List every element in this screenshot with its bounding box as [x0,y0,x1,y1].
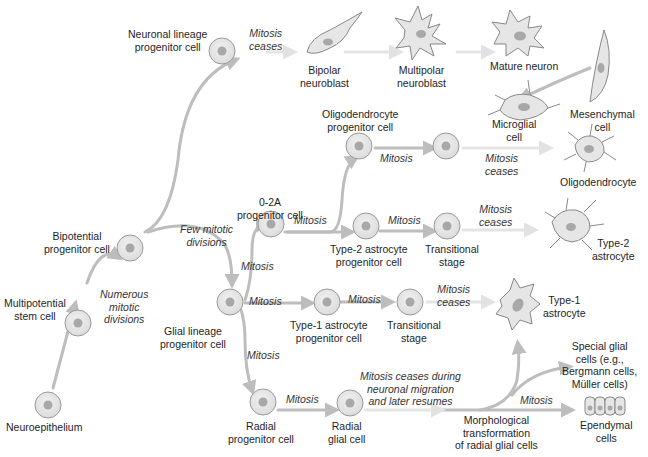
cell-bipotential [117,235,143,261]
edge-label-ependymal-mitosis: Mitosis [520,394,553,407]
label-oligodendrocyte: Oligodendrocyte [560,176,636,189]
cell-transitional-1 [434,213,460,239]
bipolar-neuroblast-icon [307,12,362,53]
cell-glial-progenitor [217,289,243,315]
cell-radial-progenitor [250,389,276,415]
edge-label-glial-to-o2a: Mitosis [241,260,274,273]
mesenchymal-cell-icon [590,30,609,102]
label-transitional-1: Transitional stage [425,243,479,268]
arrow-morph-to-type1 [480,345,519,410]
label-mesenchymal: Mesenchymal cell [570,108,635,133]
cell-oligo-stage2 [433,133,459,159]
cell-type1-progenitor [314,289,340,315]
edge-label-numerous: Numerous mitotic divisions [100,288,148,326]
edge-label-glial-to-type1: Mitosis [249,295,282,308]
label-type2-progenitor: Type-2 astrocyte progenitor cell [330,243,408,268]
type1-astrocyte-icon [496,278,540,330]
edge-label-few: Few mitotic divisions [180,223,233,248]
arrow-mesenchymal-to-microglial [522,68,590,98]
label-transitional-2: Transitional stage [387,319,441,344]
label-type1-progenitor: Type-1 astrocyte progenitor cell [290,319,368,344]
arrow-bipotential-to-neuronal [145,60,235,232]
cell-transitional-2 [397,289,423,315]
multipolar-neuroblast-icon [395,6,446,60]
label-mature-neuron: Mature neuron [490,60,558,73]
ependymal-cells-icon [585,397,625,415]
cell-neuroepithelium [35,392,61,418]
cell-neuronal-progenitor [209,38,235,64]
edge-label-o2a-to-oligo: Mitosis [380,152,413,165]
cell-oligo-progenitor [346,133,372,159]
label-neuronal-progenitor: Neuronal lineage progenitor cell [128,28,207,53]
edge-label-o2a-mitosis: Mitosis [294,214,327,227]
edge-label-type1-mitosis: Mitosis [348,293,381,306]
arrow-multipotential-to-bipotential [87,254,118,283]
cell-multipotential [65,310,91,336]
label-bipolar: Bipolar neuroblast [300,64,349,89]
edge-label-neuronal-ceases: Mitosis ceases [249,27,282,52]
edge-label-type1-ceases: Mitosis ceases [437,283,470,308]
edge-label-glial-to-radial: Mitosis [247,349,280,362]
edge-label-radial-ceases: Mitosis ceases during neuronal migration… [360,370,461,408]
label-neuroepithelium: Neuroepithelium [6,421,82,434]
edge-label-oligo-ceases: Mitosis ceases [485,152,518,177]
label-microglial: Microglial cell [492,118,536,143]
label-type2-astrocyte: Type-2 astrocyte [592,237,635,262]
label-radial-progenitor: Radial progenitor cell [228,420,294,445]
label-type1-astrocyte: Type-1 astrocyte [543,294,586,319]
cell-type2-progenitor [353,213,379,239]
label-oligo-progenitor: Oligodendrocyte progenitor cell [322,108,398,133]
label-multipolar: Multipolar neuroblast [397,64,446,89]
arrow-morph-to-special [512,367,568,395]
edge-label-type2-mitosis: Mitosis [388,214,421,227]
label-glial-progenitor: Glial lineage progenitor cell [160,325,226,350]
label-multipotential: Multipotential stem cell [4,297,66,322]
label-morphological: Morphological transformation of radial g… [455,414,538,452]
edge-label-radial-mitosis: Mitosis [286,393,319,406]
label-bipotential: Bipotential progenitor cell [44,230,110,255]
label-radial-glial: Radial glial cell [328,420,365,445]
label-special-glial: Special glial cells (e.g., Bergmann cell… [562,340,637,390]
edge-label-type2-ceases: Mitosis ceases [479,203,512,228]
label-ependymal: Ependymal cells [580,419,633,444]
mature-neuron-icon [492,10,544,56]
